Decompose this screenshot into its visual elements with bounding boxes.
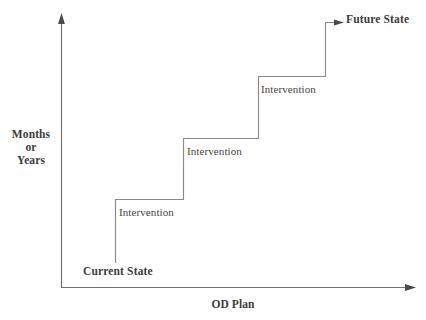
arrow-up-icon (58, 13, 65, 24)
current-state-label: Current State (83, 265, 153, 278)
y-axis-label-line-1: Months (4, 128, 58, 141)
x-axis (61, 284, 416, 291)
intervention-label-2: Intervention (187, 145, 242, 158)
staircase-path (116, 23, 339, 264)
staircase-line (116, 23, 339, 264)
intervention-label-1: Intervention (119, 206, 174, 219)
y-axis-label-line-3: Years (4, 154, 58, 167)
step-diagram-graphic (0, 0, 426, 320)
future-state-arrow-icon (334, 19, 344, 25)
figure-canvas: Months or Years OD Plan Current State In… (0, 0, 426, 320)
future-state-label: Future State (346, 13, 409, 26)
arrow-right-icon (405, 284, 416, 291)
y-axis-label-line-2: or (4, 141, 58, 154)
intervention-label-3: Intervention (261, 83, 316, 96)
y-axis (58, 13, 65, 287)
y-axis-label: Months or Years (4, 128, 58, 168)
x-axis-label: OD Plan (192, 298, 274, 311)
